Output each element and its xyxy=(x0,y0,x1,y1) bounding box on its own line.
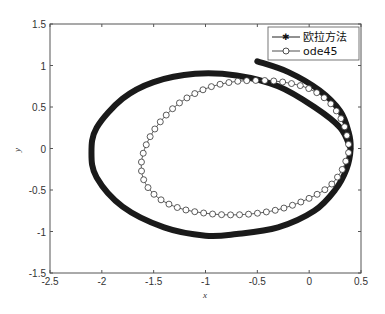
ode45-marker xyxy=(281,205,287,211)
ode45-marker xyxy=(289,202,295,208)
circle-marker-icon xyxy=(283,48,289,54)
ode45-marker xyxy=(201,210,207,216)
x-tick-label: 0.5 xyxy=(354,276,368,287)
x-tick-label: -1 xyxy=(201,276,210,287)
ode45-marker xyxy=(314,191,320,197)
ode45-marker xyxy=(346,150,352,156)
ode45-marker xyxy=(306,86,312,92)
ode45-marker xyxy=(314,90,320,96)
y-tick-label: 1 xyxy=(40,61,46,72)
ode45-marker xyxy=(306,195,312,201)
ode45-marker xyxy=(321,95,327,101)
ode45-marker xyxy=(298,199,304,205)
ode45-marker xyxy=(158,197,164,203)
x-tick-label: -0.5 xyxy=(249,276,267,287)
ode45-marker xyxy=(244,78,250,84)
y-tick-label: 0 xyxy=(40,144,46,155)
ode45-marker xyxy=(176,100,182,106)
legend-euler-label: 欧拉方法 xyxy=(303,30,347,44)
ode45-marker xyxy=(170,106,176,112)
ode45-marker xyxy=(174,204,180,210)
ode45-marker xyxy=(342,124,348,130)
ode45-marker xyxy=(208,84,214,90)
ode45-marker xyxy=(192,91,198,97)
ode45-marker xyxy=(228,212,234,218)
ode45-marker xyxy=(145,185,151,191)
ode45-marker xyxy=(346,141,352,147)
y-tick-label: 1.5 xyxy=(32,19,46,30)
x-tick-label: -1.5 xyxy=(145,276,163,287)
ode45-marker xyxy=(254,210,260,216)
ode45-marker xyxy=(210,211,216,217)
ode45-marker xyxy=(237,212,243,218)
ode45-marker xyxy=(166,201,172,207)
y-axis-label: y xyxy=(12,148,22,153)
ode45-marker xyxy=(328,101,334,107)
ode45-marker xyxy=(143,142,149,148)
ode45-marker xyxy=(219,212,225,218)
ode45-marker xyxy=(138,159,144,165)
ode45-marker xyxy=(335,174,341,180)
ode45-marker xyxy=(217,81,223,87)
ode45-marker xyxy=(192,209,198,215)
ode45-marker xyxy=(329,181,335,187)
ode45-marker xyxy=(151,191,157,197)
x-tick-label: -2 xyxy=(97,276,106,287)
ode45-marker xyxy=(183,207,189,213)
star-marker-icon: ✱ xyxy=(282,32,290,42)
ode45-marker xyxy=(339,166,345,172)
ode45-marker xyxy=(322,187,328,193)
ode45-marker xyxy=(200,87,206,93)
y-tick-label: -0.5 xyxy=(29,185,47,196)
ode45-marker xyxy=(280,79,286,85)
ode45-marker xyxy=(263,209,269,215)
ode45-marker xyxy=(140,150,146,156)
x-axis-label: x xyxy=(202,290,207,300)
ode45-marker xyxy=(262,78,268,84)
ode45-marker xyxy=(344,133,350,139)
ode45-marker xyxy=(289,81,295,87)
legend: ✱ 欧拉方法 ode45 xyxy=(268,27,359,60)
ode45-marker xyxy=(271,78,277,84)
ode45-marker xyxy=(157,119,163,125)
ode45-marker xyxy=(184,95,190,101)
x-tick-label: 0 xyxy=(306,276,312,287)
ode45-marker xyxy=(163,112,169,118)
ode45-marker xyxy=(272,207,278,213)
ode45-marker xyxy=(253,77,259,83)
ode45-marker xyxy=(141,177,147,183)
y-tick-label: -1 xyxy=(37,227,46,238)
legend-ode45-label: ode45 xyxy=(303,45,337,58)
ode45-marker xyxy=(226,80,232,86)
ode45-marker xyxy=(139,168,145,174)
ode45-marker xyxy=(152,126,158,132)
y-tick-label: 0.5 xyxy=(32,102,46,113)
ode45-marker xyxy=(333,108,339,114)
figure: -2.5-2-1.5-1-0.500.51.510.50-0.5-1-1.5 x… xyxy=(0,0,385,314)
ode45-marker xyxy=(147,134,153,140)
ode45-marker xyxy=(343,158,349,164)
ode45-marker xyxy=(297,83,303,89)
ode45-marker xyxy=(338,116,344,122)
y-tick-label: -1.5 xyxy=(29,268,47,279)
ode45-marker xyxy=(246,211,252,217)
ode45-marker xyxy=(235,78,241,84)
